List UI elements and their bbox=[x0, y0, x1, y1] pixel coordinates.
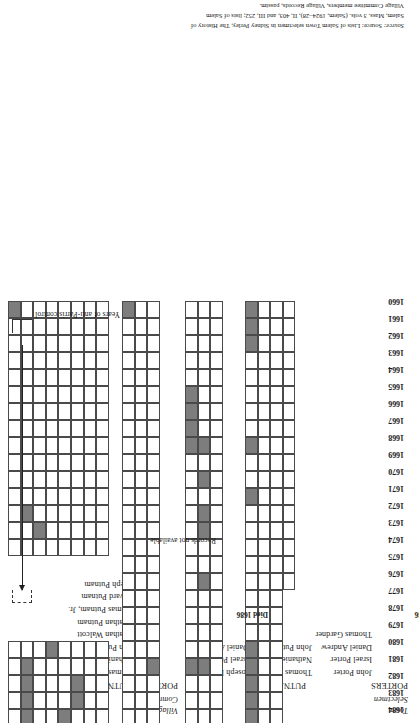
cell-filled bbox=[58, 709, 71, 723]
cell-empty bbox=[8, 505, 21, 522]
cell-empty bbox=[33, 675, 46, 692]
cell-empty bbox=[283, 522, 296, 539]
cell-empty bbox=[147, 454, 160, 471]
cell-empty bbox=[8, 488, 21, 505]
cell-empty bbox=[210, 692, 223, 709]
year-tick-1673: 1673 bbox=[388, 518, 404, 527]
figure-root: 1660166116621663166416651666166716681669… bbox=[0, 0, 419, 723]
year-tick-1677: 1677 bbox=[388, 586, 404, 595]
cell-empty bbox=[84, 454, 97, 471]
cell-empty bbox=[185, 556, 198, 573]
cell-empty bbox=[270, 539, 283, 556]
cell-empty bbox=[84, 709, 97, 723]
label-anti-parris: Years of anti-Parris control bbox=[35, 310, 120, 319]
cell-empty bbox=[46, 318, 59, 335]
cell-empty bbox=[71, 709, 84, 723]
cell-empty bbox=[198, 335, 211, 352]
cell-empty bbox=[122, 437, 135, 454]
cell-hidden bbox=[8, 624, 21, 641]
cell-empty bbox=[135, 352, 148, 369]
cell-empty bbox=[122, 386, 135, 403]
cell-empty bbox=[258, 369, 271, 386]
cell-empty bbox=[135, 386, 148, 403]
cell-empty bbox=[96, 454, 109, 471]
cell-empty bbox=[96, 658, 109, 675]
cell-empty bbox=[33, 420, 46, 437]
cell-hidden bbox=[58, 624, 71, 641]
cell-empty bbox=[33, 539, 46, 556]
cell-empty bbox=[210, 352, 223, 369]
cell-empty bbox=[96, 522, 109, 539]
cell-filled bbox=[245, 318, 258, 335]
year-tick-1667: 1667 bbox=[388, 416, 404, 425]
cell-empty bbox=[96, 335, 109, 352]
source-line-2: Salem, Mass. 3 vols. (Salem, 1924–28), I… bbox=[191, 11, 404, 21]
cell-filled bbox=[71, 692, 84, 709]
cell-empty bbox=[33, 641, 46, 658]
cell-empty bbox=[96, 352, 109, 369]
section-town-line2: Selectmen bbox=[374, 695, 408, 704]
cell-empty bbox=[210, 556, 223, 573]
cell-hidden bbox=[84, 556, 97, 573]
cell-empty bbox=[71, 488, 84, 505]
cell-hidden bbox=[84, 607, 97, 624]
section-town-line1: Town bbox=[390, 706, 408, 715]
cell-empty bbox=[46, 454, 59, 471]
cell-empty bbox=[245, 556, 258, 573]
cell-filled bbox=[245, 301, 258, 318]
cell-empty bbox=[258, 437, 271, 454]
cell-empty bbox=[270, 301, 283, 318]
cell-empty bbox=[135, 522, 148, 539]
cell-empty bbox=[258, 709, 271, 723]
cell-empty bbox=[96, 318, 109, 335]
cell-empty bbox=[283, 386, 296, 403]
cell-empty bbox=[198, 607, 211, 624]
cell-empty bbox=[210, 624, 223, 641]
cell-empty bbox=[245, 420, 258, 437]
cell-empty bbox=[122, 624, 135, 641]
year-tick-1672: 1672 bbox=[388, 501, 404, 510]
cell-empty bbox=[283, 539, 296, 556]
cell-empty bbox=[147, 420, 160, 437]
cell-empty bbox=[270, 590, 283, 607]
cell-empty bbox=[84, 505, 97, 522]
cell-empty bbox=[135, 488, 148, 505]
year-tick-1662: 1662 bbox=[388, 331, 404, 340]
cell-empty bbox=[122, 335, 135, 352]
year-tick-1682: 1682 bbox=[388, 671, 404, 680]
cell-empty bbox=[270, 573, 283, 590]
cell-empty bbox=[135, 403, 148, 420]
cell-empty bbox=[258, 573, 271, 590]
cell-empty bbox=[33, 709, 46, 723]
cell-empty bbox=[135, 709, 148, 723]
year-tick-1668: 1668 bbox=[388, 433, 404, 442]
cell-empty bbox=[283, 335, 296, 352]
cell-empty bbox=[210, 301, 223, 318]
cell-empty bbox=[96, 471, 109, 488]
cell-empty bbox=[147, 675, 160, 692]
cell-empty bbox=[8, 352, 21, 369]
cell-empty bbox=[210, 709, 223, 723]
cell-empty bbox=[135, 539, 148, 556]
cell-empty bbox=[58, 471, 71, 488]
cell-empty bbox=[71, 539, 84, 556]
year-tick-1666: 1666 bbox=[388, 399, 404, 408]
cell-empty bbox=[258, 556, 271, 573]
cell-empty bbox=[58, 641, 71, 658]
source-note: Source: Source: Lists of Salem Town sele… bbox=[191, 1, 404, 31]
cell-filled bbox=[185, 386, 198, 403]
cell-empty bbox=[58, 335, 71, 352]
cell-empty bbox=[96, 641, 109, 658]
cell-hidden bbox=[283, 624, 296, 641]
cell-empty bbox=[258, 658, 271, 675]
year-tick-1678: 1678 bbox=[388, 603, 404, 612]
cell-empty bbox=[258, 386, 271, 403]
cell-empty bbox=[96, 403, 109, 420]
cell-empty bbox=[84, 471, 97, 488]
cell-empty bbox=[185, 624, 198, 641]
cell-empty bbox=[122, 590, 135, 607]
year-tick-1661: 1661 bbox=[388, 314, 404, 323]
cell-empty bbox=[198, 624, 211, 641]
cell-filled bbox=[147, 658, 160, 675]
cell-empty bbox=[71, 641, 84, 658]
